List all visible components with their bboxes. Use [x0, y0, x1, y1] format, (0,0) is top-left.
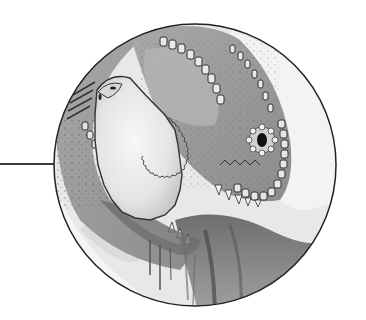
dinosaur-illustration — [0, 0, 366, 320]
eye — [246, 124, 278, 156]
